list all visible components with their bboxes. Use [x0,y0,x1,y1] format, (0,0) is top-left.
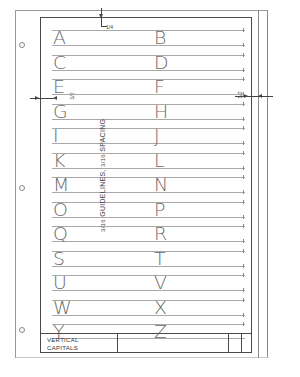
practice-letter-right: T [154,250,166,268]
letter-row: K L [52,153,245,169]
spacing-fraction: 3/16 [100,154,106,167]
letter-row: A B [52,30,245,46]
practice-letter-right: P [154,201,165,219]
guideline-tick [243,313,244,317]
practice-letter-left: S [53,250,65,268]
base-guideline [52,119,245,120]
base-guideline [52,45,245,46]
base-guideline [52,266,245,267]
guideline-tick [243,68,244,72]
guideline-tick [243,28,244,32]
base-guideline [52,192,245,193]
letter-row: Q R [52,226,245,242]
practice-letter-right: H [154,103,168,121]
spacing-annotation: 3/16 GUIDELINES, 3/16 SPACING [99,119,106,232]
practice-letter-right: X [154,299,167,317]
title-block-label: VERTICAL CAPITALS [47,336,79,352]
guideline-tick [243,298,244,302]
title-line-1: VERTICAL [47,336,79,344]
cap-guideline [52,177,245,178]
letter-row: W X [52,300,245,316]
guideline-tick [243,249,244,253]
base-guideline [52,70,245,71]
title-block-divider [241,334,242,353]
guidelines-label: GUIDELINES, [99,169,106,217]
guideline-tick [243,288,244,292]
practice-letter-right: R [154,225,167,243]
guideline-tick [243,53,244,57]
practice-letter-left: U [53,274,67,292]
guideline-tick [243,43,244,47]
guideline-tick [243,273,244,277]
guideline-tick [243,126,244,130]
cap-guideline [52,251,245,252]
practice-letter-right: L [154,152,165,170]
practice-letter-right: F [154,78,165,96]
cap-guideline [52,55,245,56]
title-block-divider [228,334,229,353]
practice-letter-left: M [53,176,69,194]
letter-row: I J [52,128,245,144]
guideline-tick [243,190,244,194]
letter-row: O P [52,202,245,218]
cap-guideline [52,324,245,325]
base-guideline [52,168,245,169]
practice-letter-left: C [53,54,66,72]
practice-letter-right: D [154,54,169,72]
cap-guideline [52,104,245,105]
base-guideline [52,143,245,144]
guideline-tick [243,215,244,219]
cap-guideline [52,226,245,227]
guideline-tick [243,322,244,326]
guideline-tick [243,117,244,121]
guideline-tick [243,166,244,170]
practice-letter-left: K [53,152,65,170]
practice-letter-left: E [53,78,65,96]
letter-row: M N [52,177,245,193]
guideline-tick [243,239,244,243]
guideline-fraction: 3/16 [100,219,106,232]
guideline-tick [243,264,244,268]
base-guideline [52,315,245,316]
guideline-tick [243,224,244,228]
practice-letter-left: G [53,103,68,121]
letter-row: E F [52,79,245,95]
guideline-tick [243,200,244,204]
guideline-tick [243,151,244,155]
practice-letter-left: Q [53,225,68,243]
cap-guideline [52,128,245,129]
base-guideline [52,94,245,95]
practice-letter-right: J [154,127,160,145]
cap-guideline [52,202,245,203]
practice-letter-left: A [53,29,66,47]
guideline-tick [243,175,244,179]
title-block: VERTICAL CAPITALS [40,333,252,353]
cap-guideline [52,30,245,31]
letter-practice-rows: A B C D E F G H I J K L [0,0,300,377]
practice-letter-left: W [53,299,72,317]
cap-guideline [52,79,245,80]
practice-letter-left: I [53,127,59,145]
guideline-tick [243,92,244,96]
cap-guideline [52,275,245,276]
practice-letter-right: B [154,29,166,47]
guideline-tick [243,141,244,145]
title-block-divider [117,334,118,353]
letter-row: C D [52,55,245,71]
cap-guideline [52,300,245,301]
base-guideline [52,217,245,218]
guideline-tick [243,102,244,106]
cap-guideline [52,153,245,154]
base-guideline [52,290,245,291]
practice-letter-right: V [154,274,167,292]
base-guideline [52,241,245,242]
letter-row: U V [52,275,245,291]
spacing-label: SPACING [99,119,106,152]
practice-letter-left: O [53,201,68,219]
letter-row: G H [52,104,245,120]
letter-row: S T [52,251,245,267]
practice-letter-right: N [154,176,168,194]
guideline-tick [243,77,244,81]
title-line-2: CAPITALS [47,344,79,352]
